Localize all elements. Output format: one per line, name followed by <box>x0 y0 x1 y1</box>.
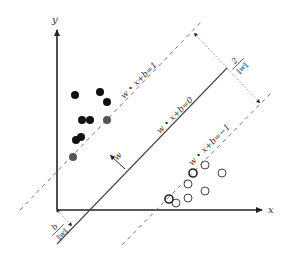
y-axis-label: y <box>51 14 58 25</box>
positive-point <box>103 98 111 106</box>
lower-margin-line <box>122 92 272 245</box>
axes: y x <box>51 14 274 215</box>
negative-point <box>218 169 226 177</box>
positive-point <box>77 133 85 141</box>
normal-vector: w <box>110 150 125 169</box>
positive-point <box>86 116 94 124</box>
negative-class-points <box>165 161 226 207</box>
svm-diagram: y x 2 ‖w‖ b ‖w‖ w w • x+b=1 w • x+b=0 <box>0 0 290 262</box>
positive-class-points <box>69 88 111 161</box>
offset-annotation: b ‖w‖ <box>46 211 72 243</box>
positive-support-vector <box>103 116 111 124</box>
hyperplane-label: w • x+b=0 <box>154 94 195 135</box>
negative-point <box>184 180 192 188</box>
negative-support-vector <box>189 169 197 177</box>
offset-arrow <box>68 222 72 226</box>
margin-width-numerator: 2 <box>229 56 240 67</box>
negative-point <box>201 161 209 169</box>
lower-margin-label: w • x+b=−1 <box>186 122 232 168</box>
x-axis-label: x <box>268 204 274 215</box>
positive-point <box>71 91 79 99</box>
upper-margin-label: w • x+b=1 <box>118 60 159 101</box>
offset-numerator: b <box>50 222 60 232</box>
positive-support-vector <box>69 153 77 161</box>
normal-vector-label: w <box>111 150 124 163</box>
negative-point <box>201 187 209 195</box>
positive-point <box>96 88 104 96</box>
positive-point <box>78 116 86 124</box>
negative-point <box>184 194 192 202</box>
negative-support-vector <box>165 195 173 203</box>
